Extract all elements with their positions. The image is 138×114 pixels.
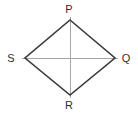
geometry-figure: P Q R S [0,0,138,114]
rhombus-diagram-svg [0,0,138,114]
vertex-label-p: P [65,4,72,15]
vertex-label-r: R [65,100,73,111]
vertex-label-s: S [7,53,14,64]
vertex-label-q: Q [122,53,131,64]
